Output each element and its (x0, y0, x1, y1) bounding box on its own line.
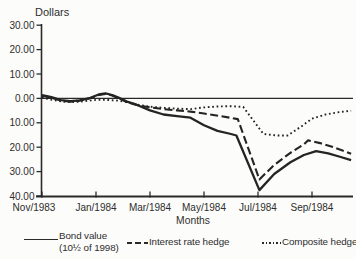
x-tick-label: Sep/1984 (291, 202, 334, 213)
legend-label-bond-value-line1: Bond value (59, 230, 119, 242)
legend-swatch-bond-value (24, 239, 58, 240)
x-axis-title: Months (176, 215, 210, 226)
x-tick-label: Mar/1984 (129, 202, 172, 213)
x-tick-label: Jan/1984 (75, 202, 117, 213)
x-tick-label: May/1984 (182, 202, 226, 213)
x-tick-label: Nov/1983 (13, 202, 56, 213)
legend-swatch-interest-rate-hedge (127, 242, 148, 244)
legend-label-bond-value-line2: (10½ of 1998) (59, 242, 119, 254)
legend-swatch-composite-hedge (262, 242, 281, 244)
y-tick-label: 10.00 (9, 69, 34, 80)
y-tick-label: 30.00 (9, 20, 34, 31)
line-chart: Dollars Months 30.0020.0010.000.0010.002… (0, 0, 356, 229)
chart-page: Dollars Months 30.0020.0010.000.0010.002… (0, 0, 356, 259)
series-line-bond-value (42, 93, 351, 190)
legend-label-interest-rate-hedge: Interest rate hedge (149, 236, 229, 248)
y-tick-label: 20.00 (9, 142, 34, 153)
series-line-composite-hedge (42, 97, 351, 135)
y-tick-label: 30.00 (9, 166, 34, 177)
y-tick-label: 0.00 (15, 93, 35, 104)
legend: Bond value (10½ of 1998) Interest rate h… (0, 229, 356, 259)
legend-label-composite-hedge: Composite hedge (282, 236, 356, 248)
y-tick-label: 10.00 (9, 117, 34, 128)
legend-label-bond-value: Bond value (10½ of 1998) (59, 230, 119, 253)
y-tick-label: 40.00 (9, 191, 34, 202)
x-tick-label: Jul/1984 (239, 202, 277, 213)
series-line-interest-rate-hedge (42, 94, 351, 179)
y-axis-title: Dollars (35, 6, 70, 18)
y-tick-label: 20.00 (9, 44, 34, 55)
